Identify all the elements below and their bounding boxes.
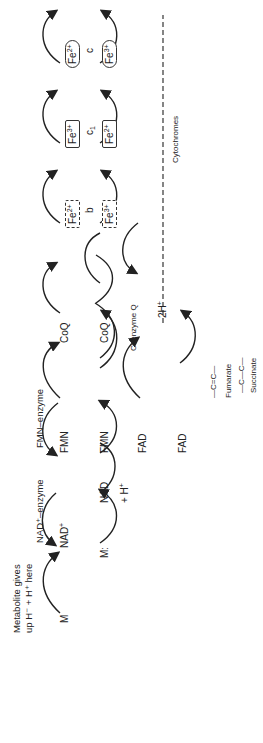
species-fmnh: FMN (60, 431, 70, 453)
arrow-fad-to-fadh (180, 311, 195, 363)
species-fad: FAD (178, 434, 188, 453)
electron-transport-diagram: Metabolite gives up H⁻ + H⁺ here M M: NA… (0, 0, 263, 743)
cyt-c-name: c (85, 48, 95, 53)
arrow-coqh-to-coq (43, 263, 60, 313)
species-mh: M (60, 615, 70, 623)
cyt-b-bottom: Fe3+ (102, 200, 117, 228)
species-m: M: (100, 547, 110, 558)
arrow-fmnh-to-fmn-top (43, 343, 60, 398)
label-fumarate: Fumarate (225, 364, 233, 398)
label-coenzyme-q: Coenzyme Q (130, 304, 138, 351)
label-cytochromes: Cytochromes (172, 116, 180, 163)
label-nad-enzyme: NAD⁺–enzyme (35, 479, 45, 543)
species-fmn: FMN (100, 431, 110, 453)
species-2h-left: 2H+ (158, 301, 168, 318)
species-coqh: CoQ (100, 322, 110, 343)
cyt-c1-bottom: Fe2+ (102, 120, 117, 148)
cyt-b-top: Fe2+ (65, 200, 80, 228)
species-nadh: NAD (100, 482, 110, 503)
cyt-c-bottom: Fe3+ (102, 40, 117, 68)
arrow-succinate-to-fumarate (123, 223, 138, 273)
structure-succinate: —C—C— (238, 357, 246, 393)
structure-fumarate: —C=C— (210, 366, 218, 398)
arrow-mh-to-m (43, 553, 60, 613)
species-nad-plus: NAD+ (60, 523, 70, 548)
species-fadh: FAD (138, 434, 148, 453)
cyt-c1-name: c1 (85, 126, 95, 135)
arrow-fmnh-to-fmn (43, 403, 58, 455)
label-fmn-enzyme: FMN–enzyme (35, 389, 45, 448)
species-plus-h: + H+ (120, 483, 130, 503)
metabolite-note-line2: up H⁻ + H⁺ here (24, 564, 34, 633)
species-coq: CoQ (60, 322, 70, 343)
label-succinate: Succinate (250, 358, 258, 393)
cyt-c-top: Fe2+ (65, 40, 80, 68)
metabolite-note-line1: Metabolite gives (12, 564, 22, 633)
cyt-b-name: b (85, 207, 95, 213)
cyt-c1-top: Fe3+ (65, 120, 80, 148)
